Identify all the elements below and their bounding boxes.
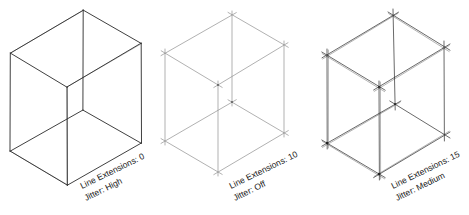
figure-canvas: Line Extensions: 0 Jitter: High Line Ext… (0, 0, 469, 215)
cube-panel-2: Line Extensions: 10 Jitter: Off (161, 11, 299, 203)
cube-panel-1: Line Extensions: 0 Jitter: High (10, 10, 146, 203)
corner-dot (394, 103, 396, 105)
wireframe-cube (10, 10, 142, 185)
wireframe-cube (322, 9, 450, 180)
cube-panel-3: Line Extensions: 15 Jitter: Medium (322, 9, 462, 203)
corner-dot (378, 173, 380, 175)
corner-dot (378, 86, 380, 88)
corner-dot (231, 101, 233, 103)
corner-dot (326, 142, 328, 144)
corner-dot (217, 84, 219, 86)
wireframe-cube (161, 11, 288, 176)
